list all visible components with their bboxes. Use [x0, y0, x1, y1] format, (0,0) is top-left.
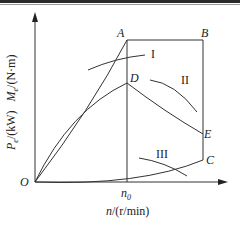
torque-unit: /(N·m)	[4, 55, 18, 88]
curve-label-i: I	[151, 48, 155, 60]
x-axis-arrow-icon	[218, 179, 228, 185]
n0-subscript: 0	[127, 193, 131, 202]
curve-I	[88, 55, 145, 70]
curve-label-iii: III	[156, 148, 168, 160]
curve-label-ii: II	[181, 74, 189, 86]
point-label-b: B	[201, 27, 208, 39]
x-axis-label: n/(r/min)	[106, 204, 149, 219]
curve-II	[150, 80, 197, 112]
power-symbol: P	[4, 143, 18, 150]
y-axis-arrow-icon	[32, 12, 38, 22]
torque-symbol: M	[4, 91, 18, 101]
point-label-d: D	[130, 72, 139, 84]
speed-unit: /(r/min)	[112, 204, 149, 218]
torque-subscript: e	[11, 88, 20, 92]
origin-label: O	[20, 176, 29, 188]
n0-tick-label: n0	[121, 187, 131, 202]
power-unit: /(kW)	[4, 110, 18, 139]
power-subscript: e	[11, 139, 20, 143]
curve-DE	[127, 83, 203, 134]
curve-OD	[35, 83, 127, 182]
point-label-c: C	[206, 154, 214, 166]
point-label-e: E	[204, 128, 211, 140]
y-axis-label: Pe/(kW) Me/(N·m)	[4, 55, 20, 150]
point-label-a: A	[117, 27, 124, 39]
curve-OC	[35, 160, 203, 183]
boundary-ABC	[127, 40, 203, 160]
